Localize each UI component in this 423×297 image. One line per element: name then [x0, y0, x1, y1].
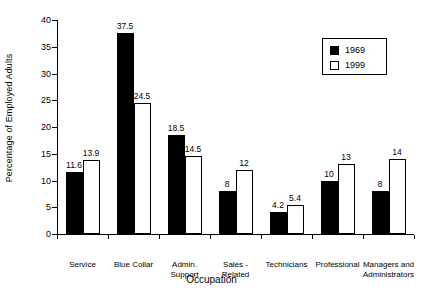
- x-axis-tick: [108, 235, 109, 239]
- y-axis-tick-label: 10: [21, 177, 51, 186]
- legend-label: 1969: [345, 46, 365, 55]
- y-axis-line: [57, 20, 58, 235]
- bar-1969-5: [321, 181, 338, 235]
- bar-chart: Percentage of Employed Adults 0510152025…: [0, 0, 423, 297]
- bar-1969-0: [66, 172, 83, 234]
- x-axis-tick: [57, 235, 58, 239]
- bar-1999-0: [83, 160, 100, 234]
- y-axis-tick: [52, 207, 57, 208]
- x-axis-tick: [363, 235, 364, 239]
- legend-label: 1999: [345, 61, 365, 70]
- x-axis-tick: [159, 235, 160, 239]
- y-axis-tick: [52, 127, 57, 128]
- x-axis-tick: [414, 235, 415, 239]
- y-axis-tick-label: 30: [21, 70, 51, 79]
- y-axis-tick: [52, 20, 57, 21]
- y-axis-tick: [52, 74, 57, 75]
- bar-value-label: 24.5: [126, 92, 159, 101]
- legend-swatch-icon: [330, 46, 339, 55]
- bar-value-label: 18.5: [160, 124, 193, 133]
- x-axis-tick: [312, 235, 313, 239]
- legend: 1969 1999: [322, 38, 387, 75]
- x-axis-tick: [261, 235, 262, 239]
- bar-1969-4: [270, 212, 287, 234]
- bar-1999-5: [338, 164, 355, 234]
- bar-value-label: 12: [228, 159, 261, 168]
- bar-1969-6: [372, 191, 389, 234]
- bar-1969-1: [117, 33, 134, 234]
- bar-1999-2: [185, 156, 202, 234]
- bar-value-label: 13: [330, 153, 363, 162]
- legend-swatch-icon: [330, 61, 339, 70]
- bar-1969-3: [219, 191, 236, 234]
- bar-value-label: 5.4: [279, 194, 312, 203]
- y-axis-tick: [52, 154, 57, 155]
- bar-value-label: 37.5: [109, 22, 142, 31]
- y-axis-tick: [52, 181, 57, 182]
- y-axis-tick-label: 20: [21, 123, 51, 132]
- y-axis-tick-label: 25: [21, 96, 51, 105]
- y-axis-tick: [52, 47, 57, 48]
- bar-1999-6: [389, 159, 406, 234]
- y-axis-tick-label: 35: [21, 43, 51, 52]
- x-axis-line: [57, 234, 414, 235]
- bar-1999-1: [134, 103, 151, 234]
- bar-value-label: 14.5: [177, 145, 210, 154]
- y-axis-tick-label: 0: [21, 230, 51, 239]
- y-axis-title: Percentage of Employed Adults: [2, 0, 16, 238]
- x-axis-title: Occupation: [0, 274, 423, 286]
- y-axis-tick: [52, 100, 57, 101]
- y-axis-tick-label: 40: [21, 16, 51, 25]
- legend-entry-1999: 1999: [330, 59, 365, 71]
- legend-entry-1969: 1969: [330, 44, 365, 56]
- y-axis-tick-label: 5: [21, 203, 51, 212]
- bar-1999-4: [287, 205, 304, 234]
- bar-1999-3: [236, 170, 253, 234]
- bar-value-label: 14: [381, 148, 414, 157]
- bar-value-label: 13.9: [75, 149, 108, 158]
- y-axis-tick-label: 15: [21, 150, 51, 159]
- x-axis-tick: [210, 235, 211, 239]
